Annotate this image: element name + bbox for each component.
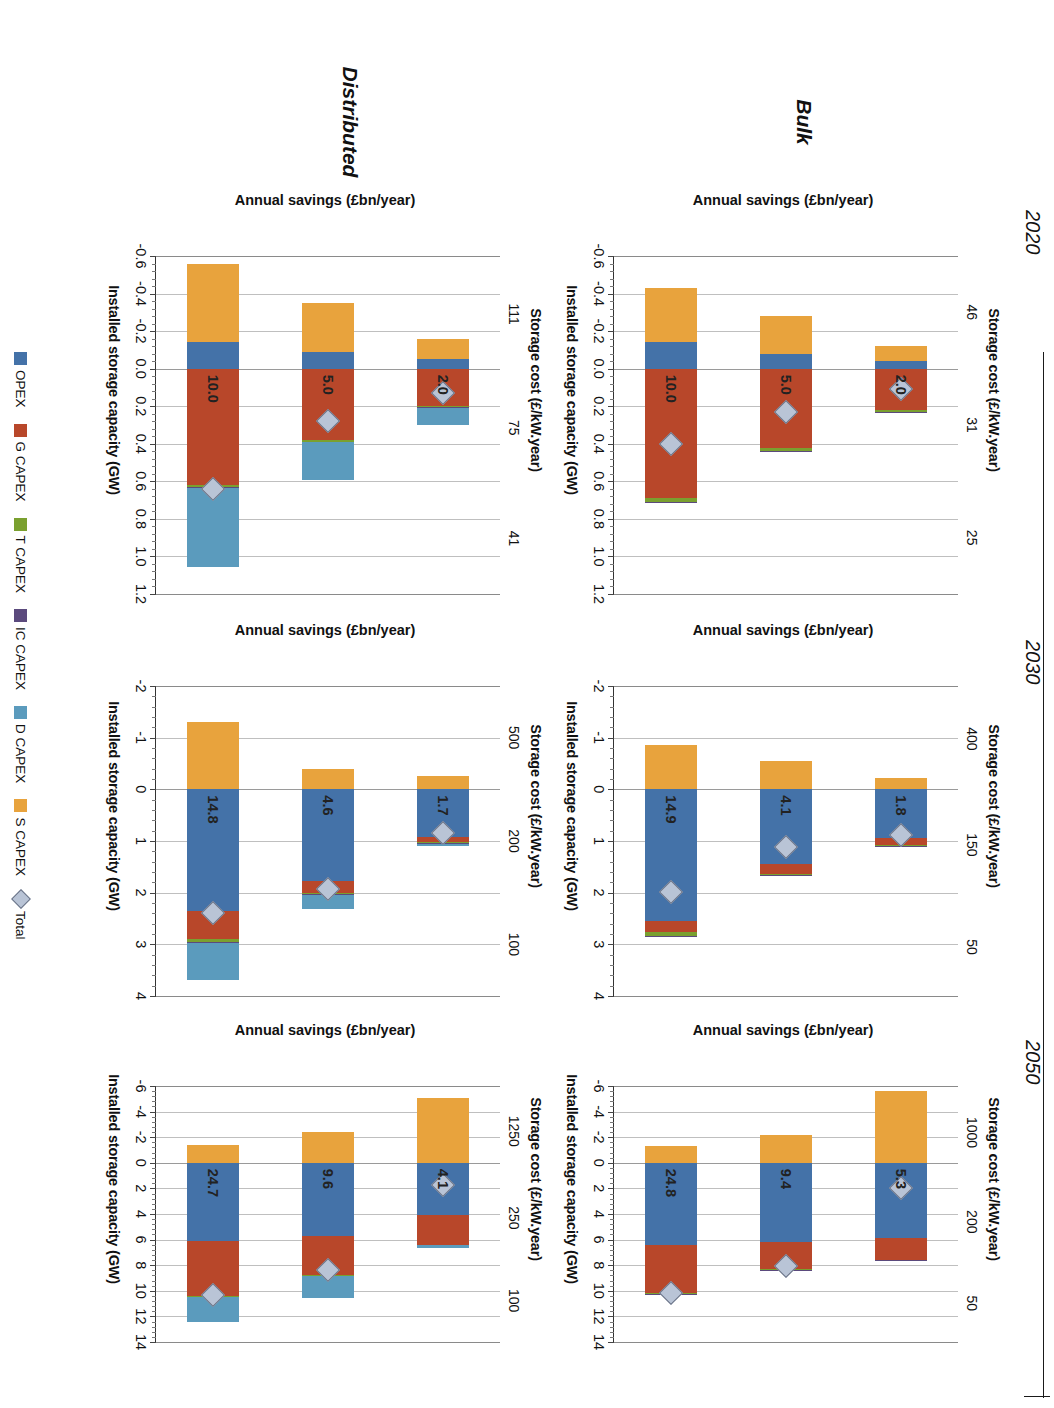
bar-row[interactable]: 14.8 — [187, 686, 239, 996]
axis-tick-label: -0.6 — [591, 244, 607, 269]
axis-minor-tick — [153, 1306, 157, 1307]
axis-tick-label: 0.6 — [133, 471, 149, 491]
bar-row[interactable]: 2.0 — [875, 256, 927, 594]
axis-minor-tick — [611, 324, 615, 325]
axis-minor-tick — [153, 1322, 157, 1323]
axis-minor-tick — [611, 384, 615, 385]
bar-row[interactable]: 5.0 — [302, 256, 354, 594]
axis-minor-tick — [611, 541, 615, 542]
bar-row[interactable]: 24.8 — [645, 1086, 697, 1342]
axis-minor-tick — [153, 496, 157, 497]
bar-segment-s-capex — [187, 264, 239, 343]
axis-tick — [608, 1086, 614, 1087]
legend-label: OPEX — [14, 370, 29, 408]
category-label: 41 — [500, 531, 522, 547]
axis-minor-tick — [611, 421, 615, 422]
legend-swatch-icon — [15, 706, 28, 719]
axis-minor-tick — [153, 1332, 157, 1333]
axis-minor-tick — [611, 924, 615, 925]
category-label: 100 — [500, 1289, 522, 1312]
axis-minor-tick — [611, 851, 615, 852]
axis-minor-tick — [153, 1142, 157, 1143]
capacity-value-label: 10.0 — [663, 375, 679, 403]
axis-tick-label: -1 — [133, 731, 149, 744]
axis-tick-label: 12 — [133, 1308, 149, 1324]
axis-tick — [150, 1342, 156, 1343]
gridline — [156, 996, 500, 997]
axis-minor-tick — [153, 429, 157, 430]
category-labels: 463125 — [958, 256, 980, 594]
bar-segment-s-capex — [760, 761, 812, 789]
chart-panel-bulk-2020: Storage cost (£/kW.year)Installed storag… — [564, 180, 1002, 600]
panel-value-axis-title: Annual savings (£bn/year) — [633, 622, 933, 638]
axis-minor-tick — [611, 391, 615, 392]
axis-minor-tick — [611, 1158, 615, 1159]
axis-minor-tick — [611, 872, 615, 873]
axis-minor-tick — [611, 1234, 615, 1235]
axis-minor-tick — [611, 1219, 615, 1220]
category-label: 1000 — [958, 1117, 980, 1148]
chart-panel-distributed-2020: Storage cost (£/kW.year)Installed storag… — [106, 180, 544, 600]
axis-minor-tick — [153, 511, 157, 512]
axis-tick-label: -0.4 — [133, 281, 149, 306]
axis-minor-tick — [153, 579, 157, 580]
bar-row[interactable]: 1.8 — [875, 686, 927, 996]
capacity-value-label: 5.0 — [320, 375, 336, 395]
axis-tick-label: 2 — [591, 1184, 607, 1192]
axis-line — [613, 256, 614, 594]
capacity-value-label: 10.0 — [205, 375, 221, 403]
capacity-value-label: 1.8 — [893, 795, 909, 815]
bar-row[interactable]: 4.1 — [760, 686, 812, 996]
axis-minor-tick — [153, 1234, 157, 1235]
axis-tick-label: -0.6 — [133, 244, 149, 269]
bar-row[interactable]: 5.0 — [760, 256, 812, 594]
bar-row[interactable]: 4.1 — [417, 1086, 469, 1342]
axis-tick-label: 0 — [591, 1159, 607, 1167]
value-axis: 14121086420-2-4-6 — [134, 1086, 156, 1342]
axis-minor-tick — [153, 1096, 157, 1097]
bar-row[interactable]: 1.7 — [417, 686, 469, 996]
axis-tick-label: -2 — [591, 680, 607, 693]
bar-row[interactable]: 24.7 — [187, 1086, 239, 1342]
bar-row[interactable]: 14.9 — [645, 686, 697, 996]
bar-segment-opex — [875, 361, 927, 369]
capacity-value-label: 1.7 — [435, 795, 451, 815]
axis-minor-tick — [153, 810, 157, 811]
axis-tick — [608, 1137, 614, 1138]
panel-top-axis-title: Storage cost (£/kW.year) — [986, 1010, 1002, 1348]
axis-tick — [608, 893, 614, 894]
axis-minor-tick — [611, 1091, 615, 1092]
bar-row[interactable]: 9.6 — [302, 1086, 354, 1342]
legend-item-opex: OPEX — [14, 352, 29, 408]
axis-minor-tick — [611, 1322, 615, 1323]
axis-tick — [608, 1291, 614, 1292]
axis-tick — [608, 519, 614, 520]
legend-label: D CAPEX — [14, 724, 29, 783]
bar-row[interactable]: 10.0 — [187, 256, 239, 594]
legend-item-ic-capex: IC CAPEX — [14, 609, 29, 690]
category-label: 50 — [958, 1295, 980, 1311]
axis-tick — [150, 1291, 156, 1292]
axis-tick — [150, 1188, 156, 1189]
axis-minor-tick — [153, 717, 157, 718]
legend-label: IC CAPEX — [14, 627, 29, 690]
bar-row[interactable]: 10.0 — [645, 256, 697, 594]
bar-row[interactable]: 5.3 — [875, 1086, 927, 1342]
bar-row[interactable]: 9.4 — [760, 1086, 812, 1342]
axis-minor-tick — [153, 882, 157, 883]
bar-row[interactable]: 2.0 — [417, 256, 469, 594]
axis-minor-tick — [611, 354, 615, 355]
axis-minor-tick — [611, 504, 615, 505]
axis-minor-tick — [611, 1117, 615, 1118]
axis-minor-tick — [611, 955, 615, 956]
axis-minor-tick — [611, 279, 615, 280]
axis-minor-tick — [153, 541, 157, 542]
capacity-value-label: 4.6 — [320, 795, 336, 815]
legend-swatch-icon — [15, 609, 28, 622]
bar-segment-g-capex — [645, 921, 697, 932]
capacity-value-label: 9.4 — [778, 1169, 794, 1189]
axis-minor-tick — [153, 549, 157, 550]
bar-row[interactable]: 4.6 — [302, 686, 354, 996]
axis-minor-tick — [611, 831, 615, 832]
axis-minor-tick — [153, 1194, 157, 1195]
